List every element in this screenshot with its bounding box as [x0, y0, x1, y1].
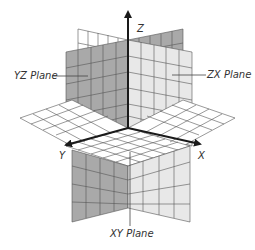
xy-plane-label: XY Plane [110, 229, 154, 239]
z-axis-label: Z [137, 24, 144, 34]
x-axis-label: X [198, 151, 205, 161]
yz-plane-label: YZ Plane [14, 71, 58, 81]
y-axis-label: Y [59, 151, 65, 161]
diagram-canvas [0, 0, 255, 250]
coordinate-planes-diagram: Z Y X YZ Plane ZX Plane XY Plane [0, 0, 255, 250]
zx-plane-label: ZX Plane [207, 70, 251, 80]
